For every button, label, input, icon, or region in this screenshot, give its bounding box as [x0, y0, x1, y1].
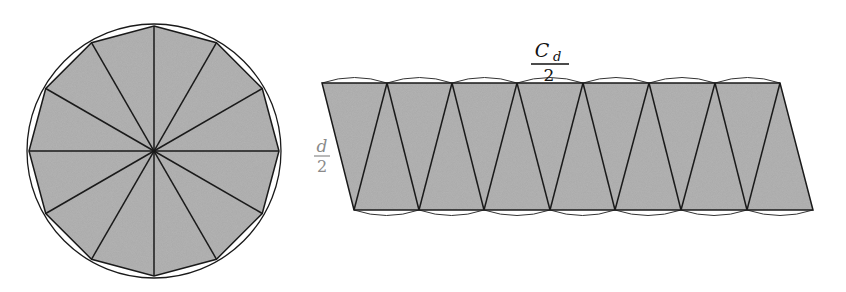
- diagram-canvas: C d 2 d 2: [0, 0, 846, 292]
- bottom-arc: [419, 210, 484, 216]
- radius-half-label: d 2: [314, 136, 330, 176]
- circle-sector-diagram: [27, 24, 281, 278]
- bottom-arc: [747, 210, 813, 216]
- rearranged-sector-strip: [322, 78, 813, 216]
- bottom-arc: [484, 210, 550, 216]
- bottom-arc: [681, 210, 747, 216]
- top-arc: [322, 78, 387, 84]
- label-2: 2: [317, 157, 327, 176]
- bottom-arc: [354, 210, 419, 216]
- bottom-arc: [550, 210, 615, 216]
- label-subscript-d: d: [553, 49, 561, 64]
- label-2: 2: [544, 65, 555, 85]
- label-C: C: [535, 39, 550, 61]
- top-arc: [387, 78, 452, 84]
- label-d: d: [317, 136, 328, 156]
- top-arc: [649, 78, 715, 84]
- bottom-arc: [615, 210, 681, 216]
- top-arc: [583, 78, 649, 84]
- top-arc: [452, 78, 517, 84]
- top-arc: [715, 78, 780, 84]
